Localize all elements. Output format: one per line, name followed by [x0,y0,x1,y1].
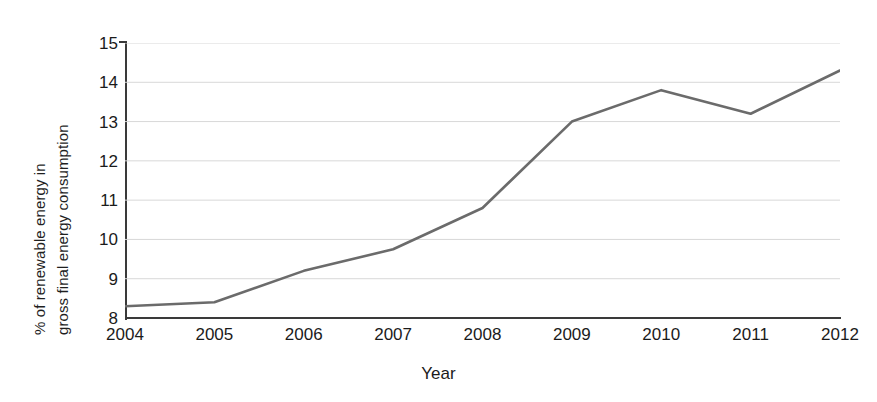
y-tick-label-8: 8 [84,310,118,327]
y-axis-title: % of renewable energy in gross final ene… [0,0,92,345]
x-tick-label-2011: 2011 [732,326,769,343]
y-axis-title-line-1: % of renewable energy in [31,163,48,335]
x-tick-label-2010: 2010 [642,326,680,343]
x-tick-label-2005: 2005 [195,326,233,343]
y-tick-label-15: 15 [84,35,118,52]
y-tick-label-11: 11 [84,192,118,209]
y-axis-title-line-2: gross final energy consumption [54,124,71,335]
gridlines [125,43,840,279]
x-axis-tick-labels: 200420052006200720082009201020112012 [125,326,840,352]
plot-area [125,43,840,318]
x-tick-label-2007: 2007 [374,326,412,343]
plot-svg [125,43,840,318]
x-axis-title: Year [0,364,877,384]
y-tick-label-13: 13 [84,113,118,130]
y-tick-label-14: 14 [84,74,118,91]
x-tick-label-2006: 2006 [285,326,323,343]
x-tick-label-2004: 2004 [106,326,144,343]
y-tick-label-10: 10 [84,231,118,248]
x-tick-label-2012: 2012 [821,326,859,343]
y-tick-label-9: 9 [84,270,118,287]
x-tick-label-2009: 2009 [553,326,591,343]
chart-figure: % of renewable energy in gross final ene… [0,0,877,402]
y-tick-label-12: 12 [84,152,118,169]
x-tick-label-2008: 2008 [464,326,502,343]
series-line-renewable-energy [125,71,840,307]
